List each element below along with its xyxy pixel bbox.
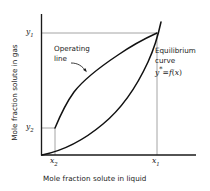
annotation-operating-line: Operating line <box>54 44 90 63</box>
formula-paren-close: ) <box>179 68 182 77</box>
annotation-equilibrium-curve: Equilibrium curve y*=f(x) <box>155 46 196 77</box>
annotation-equilibrium-curve-2: curve <box>155 56 196 66</box>
annotation-equilibrium-formula: y*=f(x) <box>155 65 196 77</box>
tick-label-x2-sub: 2 <box>54 161 57 167</box>
annotation-operating-line-2: line <box>54 54 90 64</box>
tick-label-x2: x2 <box>50 156 58 167</box>
tick-label-x1-sub: 1 <box>156 161 159 167</box>
y-axis-title: Mole fraction solute in gas <box>10 27 19 159</box>
equilibrium-operating-line-chart: Mole fraction solute in liquid Mole frac… <box>0 0 210 191</box>
tick-label-x1: x1 <box>152 156 160 167</box>
annotation-equilibrium-curve-1: Equilibrium <box>155 46 196 56</box>
tick-label-y1-sub: 1 <box>30 32 33 38</box>
equilibrium-curve <box>42 22 161 155</box>
tick-label-y1: y1 <box>26 27 34 38</box>
operating-line-leader-arrow <box>71 63 87 72</box>
chart-axes <box>41 14 196 156</box>
tick-label-y2: y2 <box>26 122 34 133</box>
tick-label-y2-sub: 2 <box>30 127 33 133</box>
annotation-operating-line-1: Operating <box>54 44 90 54</box>
x-axis-title: Mole fraction solute in liquid <box>43 174 146 183</box>
